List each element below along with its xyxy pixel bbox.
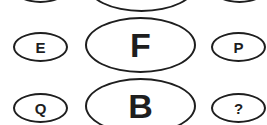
ellipse-row1-left <box>13 0 68 3</box>
ellipse-row2-right: P <box>211 32 266 62</box>
ellipse-row2-center: F <box>85 17 196 73</box>
ellipse-label: P <box>233 40 243 55</box>
ellipse-label: Q <box>35 101 47 116</box>
ellipse-row3-center: B <box>85 78 196 125</box>
ellipse-row2-left: E <box>13 32 68 62</box>
ellipse-label: F <box>130 28 151 62</box>
ellipse-row3-right: ? <box>211 93 266 123</box>
ellipse-label: ? <box>234 101 243 116</box>
ellipse-label: B <box>128 89 153 123</box>
ellipse-row3-left: Q <box>13 93 68 123</box>
ellipse-row1-center <box>86 0 197 12</box>
ellipse-label: E <box>35 40 45 55</box>
ellipse-row1-right <box>212 0 267 3</box>
